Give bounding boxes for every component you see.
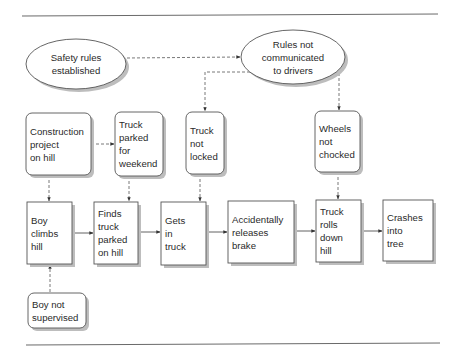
node-label-line: Boy bbox=[31, 215, 48, 226]
node-label-line: Truck bbox=[119, 119, 143, 130]
edge-rules-not-communicated-to-truck-not-locked bbox=[205, 72, 255, 111]
node-label-line: truck bbox=[98, 221, 119, 232]
node-crashes-into-tree: Crashesintotree bbox=[383, 200, 436, 264]
node-label-line: rolls bbox=[320, 219, 338, 230]
node-label-line: not bbox=[319, 136, 333, 147]
node-label-line: chocked bbox=[319, 149, 355, 160]
node-label-line: releases bbox=[232, 227, 268, 238]
node-gets-in-truck: Getsintruck bbox=[161, 202, 209, 268]
node-label-line: down bbox=[320, 232, 343, 243]
node-label-line: Crashes bbox=[387, 212, 423, 223]
node-label-line: Wheels bbox=[319, 123, 351, 134]
node-label-line: truck bbox=[165, 241, 186, 252]
node-label-line: Gets bbox=[165, 215, 185, 226]
top-rule bbox=[22, 14, 438, 16]
node-truck-parked-weekend: Truckparkedforweekend bbox=[115, 112, 166, 179]
node-label-line: into bbox=[387, 225, 402, 236]
node-label-line: on hill bbox=[30, 152, 55, 163]
node-rules-not-communicated: Rules notcommunicatedto drivers bbox=[241, 30, 348, 87]
node-construction-project: Constructionprojecton hill bbox=[26, 113, 94, 178]
node-label-line: Boy not bbox=[32, 299, 65, 310]
causal-diagram: Safety rulesestablishedRules notcommunic… bbox=[0, 0, 457, 357]
node-label-line: parked bbox=[98, 234, 127, 245]
node-label-line: to drivers bbox=[273, 65, 313, 76]
node-label-line: locked bbox=[190, 151, 218, 162]
node-label-line: tree bbox=[387, 238, 404, 249]
node-label-line: in bbox=[165, 228, 172, 239]
node-label-line: project bbox=[30, 139, 59, 150]
node-truck-not-locked: Trucknotlocked bbox=[186, 112, 227, 177]
node-label-line: hill bbox=[320, 245, 332, 256]
node-finds-truck: Findstruckparkedon hill bbox=[94, 202, 141, 267]
node-label-line: brake bbox=[232, 240, 256, 251]
node-label-line: for bbox=[119, 145, 131, 156]
node-label-line: Safety rules bbox=[51, 52, 102, 63]
node-releases-brake: Accidentallyreleasesbrake bbox=[228, 201, 297, 266]
node-label-line: Finds bbox=[98, 208, 122, 219]
node-label-line: communicated bbox=[262, 52, 324, 63]
node-truck-rolls: Truckrollsdownhill bbox=[316, 200, 364, 265]
node-label-line: Truck bbox=[190, 125, 214, 136]
node-label-line: climbs bbox=[31, 228, 58, 239]
bottom-rule bbox=[26, 343, 440, 345]
node-boy-climbs-hill: Boyclimbshill bbox=[27, 202, 75, 267]
ellipse-shape bbox=[26, 39, 126, 89]
node-label-line: on hill bbox=[98, 247, 123, 258]
node-boy-not-supervised: Boy notsupervised bbox=[28, 293, 89, 331]
node-label-line: Accidentally bbox=[232, 214, 283, 225]
node-label-line: supervised bbox=[32, 312, 78, 323]
node-label-line: parked bbox=[119, 132, 148, 143]
edge-safety-rules-to-rules-not-communicated bbox=[127, 57, 240, 58]
node-label-line: Construction bbox=[30, 126, 84, 137]
node-label-line: Truck bbox=[320, 206, 344, 217]
node-label-line: Rules not bbox=[273, 39, 314, 50]
node-label-line: established bbox=[52, 65, 101, 76]
nodes: Safety rulesestablishedRules notcommunic… bbox=[26, 30, 436, 331]
node-safety-rules: Safety rulesestablished bbox=[26, 39, 129, 92]
node-wheels-not-chocked: Wheelsnotchocked bbox=[315, 111, 363, 175]
node-label-line: not bbox=[190, 138, 204, 149]
node-label-line: weekend bbox=[118, 158, 157, 169]
node-label-line: hill bbox=[31, 241, 43, 252]
